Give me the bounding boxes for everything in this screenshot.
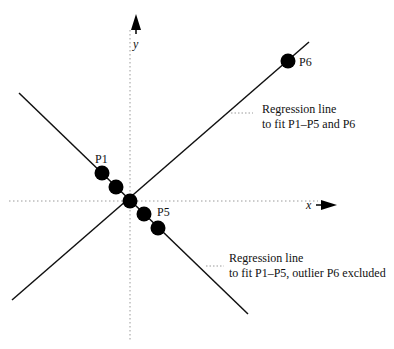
x-axis-arrow-icon (321, 200, 337, 210)
upper-annotation-line2: to fit P1–P5 and P6 (262, 117, 355, 131)
point-p5 (151, 221, 166, 236)
x-axis-label: x (305, 198, 312, 212)
y-axis-arrow-icon (131, 14, 141, 30)
label-p5: P5 (157, 205, 170, 219)
lower-annotation-line1: Regression line (229, 251, 303, 265)
point-p6 (281, 54, 296, 69)
upper-annotation-line1: Regression line (262, 102, 336, 116)
lower-annotation-line2: to fit P1–P5, outlier P6 excluded (229, 266, 386, 280)
point-p1 (95, 166, 110, 181)
point-p2 (109, 180, 124, 195)
point-p4 (137, 207, 152, 222)
label-p1: P1 (95, 152, 108, 166)
y-axis-label: y (132, 37, 139, 51)
regression-diagram: y x P1 P5 P6 Regression line to fit P1–P… (0, 0, 394, 349)
point-p3 (123, 194, 138, 209)
label-p6: P6 (299, 55, 312, 69)
